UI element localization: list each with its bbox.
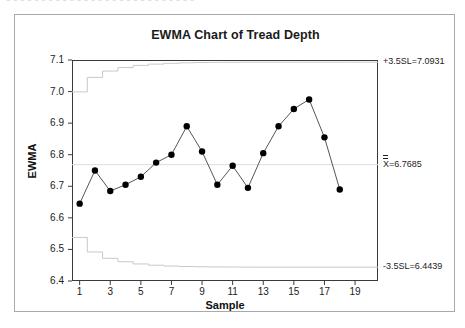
- x-tick-label: 1: [69, 286, 91, 297]
- center-line-label: X=6.7685: [383, 159, 422, 169]
- center-line-prefix: X: [383, 159, 389, 169]
- y-tick-label: 6.8: [30, 149, 64, 160]
- double-bar-overline: [383, 155, 388, 159]
- ewma-line: [80, 99, 340, 203]
- data-point: [306, 96, 312, 102]
- upper-control-limit-label: +3.5SL=7.0931: [383, 56, 445, 66]
- x-tick-label: 13: [252, 286, 274, 297]
- y-tick-label: 7.1: [30, 54, 64, 65]
- chart-panel: EWMA Chart of Tread Depth EWMA Sample 6.…: [14, 14, 455, 312]
- data-point: [168, 152, 174, 158]
- y-tick-label: 6.6: [30, 212, 64, 223]
- data-point: [321, 134, 327, 140]
- y-tick-label: 6.4: [30, 275, 64, 286]
- data-point: [153, 159, 159, 165]
- x-tick-label: 15: [283, 286, 305, 297]
- y-tick-label: 6.9: [30, 117, 64, 128]
- data-point: [92, 167, 98, 173]
- x-tick-label: 3: [99, 286, 121, 297]
- data-point: [260, 150, 266, 156]
- clipped-text: o o o o o o o o o o o o o o o o o o o o …: [6, 0, 195, 3]
- clipped-top-text-strip: o o o o o o o o o o o o o o o o o o o o …: [0, 0, 465, 10]
- data-point: [122, 182, 128, 188]
- data-point: [229, 163, 235, 169]
- x-tick-label: 5: [130, 286, 152, 297]
- data-point: [245, 185, 251, 191]
- x-double-bar-symbol: X: [383, 159, 389, 169]
- data-point: [337, 186, 343, 192]
- x-tick-label: 17: [313, 286, 335, 297]
- y-tick-label: 6.5: [30, 243, 64, 254]
- data-point: [291, 106, 297, 112]
- data-point: [107, 188, 113, 194]
- x-tick-label: 7: [160, 286, 182, 297]
- data-point: [275, 123, 281, 129]
- x-tick-label: 9: [191, 286, 213, 297]
- data-point: [76, 200, 82, 206]
- data-point: [138, 174, 144, 180]
- center-line-value: =6.7685: [389, 159, 422, 169]
- data-point: [214, 182, 220, 188]
- x-tick-label: 19: [344, 286, 366, 297]
- x-tick-label: 11: [222, 286, 244, 297]
- y-tick-label: 7.0: [30, 86, 64, 97]
- ewma-data-points: [76, 96, 343, 207]
- data-point: [199, 148, 205, 154]
- lower-control-limit-label: -3.5SL=6.4439: [383, 261, 442, 271]
- data-point: [184, 123, 190, 129]
- y-tick-label: 6.7: [30, 180, 64, 191]
